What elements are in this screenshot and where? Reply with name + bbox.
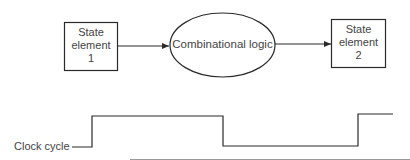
state-element-2-line2: element (331, 36, 386, 49)
combinational-logic-label: Combinational logic (170, 38, 275, 50)
state-element-2-line1: State (331, 23, 386, 36)
state-element-2-line3: 2 (331, 49, 386, 62)
state-element-1-line3: 1 (64, 52, 118, 65)
clock-cycle-label: Clock cycle (14, 140, 70, 152)
state-element-1-line2: element (64, 39, 118, 52)
clock-waveform (72, 114, 393, 147)
state-element-2-label: State element 2 (331, 23, 386, 62)
state-element-1-label: State element 1 (64, 26, 118, 65)
state-element-1-line1: State (64, 26, 118, 39)
